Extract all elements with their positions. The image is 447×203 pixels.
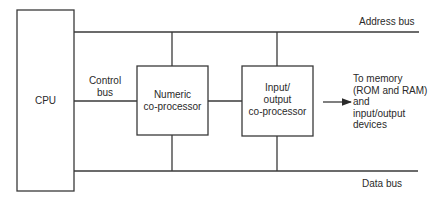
control-bus-label-line-2: bus [97, 87, 113, 98]
cpu-block: CPU [17, 10, 74, 191]
data-bus: Data bus [74, 171, 418, 189]
io-coprocessor-label-line-2: output [264, 94, 292, 105]
address-bus: Address bus [74, 16, 419, 32]
data-bus-label: Data bus [362, 178, 402, 189]
output-note-line-4: input/output [353, 108, 405, 119]
numeric-coprocessor-label-line-2: co-processor [144, 101, 202, 112]
cpu-label: CPU [35, 95, 56, 106]
io-coprocessor-block: Input/ output co-processor [242, 66, 313, 136]
output-note: To memory (ROM and RAM) and input/output… [353, 73, 427, 130]
address-bus-label: Address bus [359, 16, 415, 27]
output-note-line-1: To memory [353, 73, 402, 84]
numeric-coprocessor-label-line-1: Numeric [154, 89, 191, 100]
io-coprocessor-label-line-3: co-processor [249, 106, 307, 117]
io-coprocessor-label-line-1: Input/ [265, 82, 290, 93]
output-note-line-3: and [353, 96, 370, 107]
control-bus-label-line-1: Control [89, 75, 121, 86]
numeric-coprocessor-block: Numeric co-processor [137, 66, 208, 135]
output-note-line-5: devices [353, 119, 387, 130]
cpu-bus-diagram: Address bus Data bus Control bus CPU Num… [0, 0, 447, 203]
output-note-line-2: (ROM and RAM) [353, 85, 427, 96]
